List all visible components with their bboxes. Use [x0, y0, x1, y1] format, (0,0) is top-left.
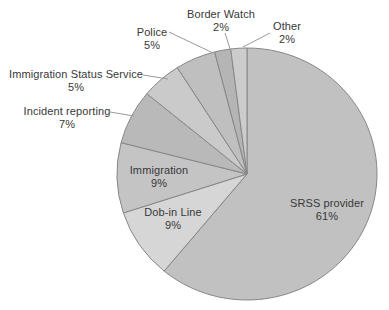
label-srss-provider: SRSS provider 61% [290, 197, 364, 223]
label-police: Police 5% [137, 26, 168, 52]
label-immigration-name: Immigration [130, 164, 189, 177]
label-incident-reporting-name: Incident reporting [24, 105, 111, 118]
label-incident-reporting-pct: 7% [24, 118, 111, 131]
label-border-watch: Border Watch 2% [187, 8, 255, 34]
label-border-watch-pct: 2% [187, 21, 255, 34]
label-border-watch-name: Border Watch [187, 8, 255, 21]
pie-chart-figure: Border Watch 2% Police 5% Other 2% Immig… [0, 0, 389, 310]
label-other-name: Other [273, 20, 301, 33]
label-srss-provider-name: SRSS provider [290, 197, 364, 210]
label-other: Other 2% [273, 20, 301, 46]
label-incident-reporting: Incident reporting 7% [24, 105, 111, 131]
label-police-pct: 5% [137, 39, 168, 52]
label-immigration-status-service-name: Immigration Status Service [9, 68, 143, 81]
label-other-pct: 2% [273, 33, 301, 46]
label-immigration-pct: 9% [130, 177, 189, 190]
pie-chart [0, 0, 389, 310]
leader-line-incident-reporting [110, 112, 134, 116]
label-srss-provider-pct: 61% [290, 210, 364, 223]
label-immigration-status-service-pct: 5% [9, 81, 143, 94]
label-immigration: Immigration 9% [130, 164, 189, 190]
label-police-name: Police [137, 26, 168, 39]
label-dob-in-line: Dob-in Line 9% [144, 206, 201, 232]
label-dob-in-line-name: Dob-in Line [144, 206, 201, 219]
label-dob-in-line-pct: 9% [144, 219, 201, 232]
label-immigration-status-service: Immigration Status Service 5% [9, 68, 143, 94]
leader-line-police [169, 32, 213, 53]
leader-line-other [243, 33, 270, 47]
